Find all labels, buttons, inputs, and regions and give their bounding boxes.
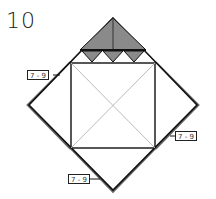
origami-diagram [0, 0, 216, 199]
label-bottom: 7 - 9 [68, 174, 90, 184]
label-right: 7 - 9 [175, 131, 197, 141]
label-left: 7 - 9 [27, 70, 49, 80]
